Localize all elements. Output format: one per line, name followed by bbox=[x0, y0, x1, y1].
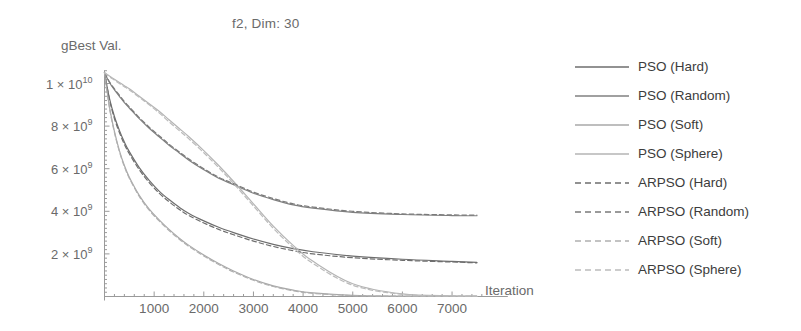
legend-label: PSO (Soft) bbox=[638, 117, 703, 132]
chart-figure: f2, Dim: 30 gBest Val. Iteration 1 × 101… bbox=[0, 0, 801, 331]
series-line-pso-sphere bbox=[105, 73, 477, 296]
legend-label: PSO (Sphere) bbox=[638, 146, 723, 161]
legend-item[interactable]: PSO (Random) bbox=[575, 81, 801, 110]
legend-item[interactable]: ARPSO (Random) bbox=[575, 197, 801, 226]
x-tick-label: 2000 bbox=[189, 301, 219, 316]
legend-item[interactable]: ARPSO (Hard) bbox=[575, 168, 801, 197]
y-tick-label: 6 × 109 bbox=[0, 161, 93, 176]
legend-item[interactable]: PSO (Soft) bbox=[575, 110, 801, 139]
series-line-arpso-hard bbox=[105, 73, 477, 263]
x-tick-label: 4000 bbox=[288, 301, 318, 316]
legend-label: PSO (Random) bbox=[638, 88, 730, 103]
x-tick-label: 1000 bbox=[139, 301, 169, 316]
chart-legend: PSO (Hard)PSO (Random)PSO (Soft)PSO (Sph… bbox=[575, 52, 801, 284]
legend-line-swatch bbox=[575, 178, 629, 188]
legend-label: ARPSO (Soft) bbox=[638, 233, 722, 248]
legend-item[interactable]: ARPSO (Sphere) bbox=[575, 255, 801, 284]
y-tick-label: 1 × 1010 bbox=[0, 76, 93, 91]
x-tick-label: 5000 bbox=[338, 301, 368, 316]
legend-line-swatch bbox=[575, 236, 629, 246]
series-line-pso-soft bbox=[105, 73, 477, 297]
y-tick-label: 4 × 109 bbox=[0, 204, 93, 219]
series-line-arpso-soft bbox=[105, 73, 477, 297]
legend-line-swatch bbox=[575, 149, 629, 159]
series-line-pso-hard bbox=[105, 73, 477, 263]
x-tick-label: 6000 bbox=[387, 301, 417, 316]
legend-line-swatch bbox=[575, 91, 629, 101]
legend-line-swatch bbox=[575, 207, 629, 217]
legend-label: ARPSO (Hard) bbox=[638, 175, 727, 190]
legend-item[interactable]: ARPSO (Soft) bbox=[575, 226, 801, 255]
legend-line-swatch bbox=[575, 62, 629, 72]
series-line-arpso-sphere bbox=[105, 73, 477, 296]
legend-line-swatch bbox=[575, 265, 629, 275]
y-tick-label: 2 × 109 bbox=[0, 246, 93, 261]
legend-label: PSO (Hard) bbox=[638, 59, 709, 74]
legend-label: ARPSO (Sphere) bbox=[638, 262, 742, 277]
legend-item[interactable]: PSO (Hard) bbox=[575, 52, 801, 81]
x-tick-label: 3000 bbox=[238, 301, 268, 316]
legend-line-swatch bbox=[575, 120, 629, 130]
legend-item[interactable]: PSO (Sphere) bbox=[575, 139, 801, 168]
legend-label: ARPSO (Random) bbox=[638, 204, 749, 219]
x-tick-label: 7000 bbox=[437, 301, 467, 316]
y-tick-label: 8 × 109 bbox=[0, 119, 93, 134]
